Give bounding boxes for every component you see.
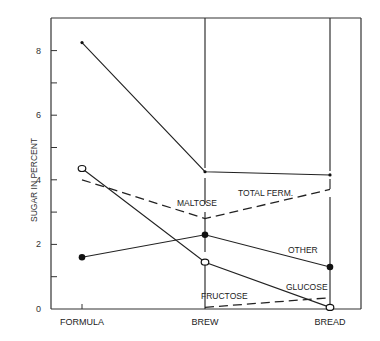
series-line-total-ferm- xyxy=(82,43,330,175)
y-tick-label: 8 xyxy=(36,46,41,56)
series-label: MALTOSE xyxy=(177,198,217,208)
series-label: FRUCTOSE xyxy=(201,291,248,301)
y-tick-label: 6 xyxy=(36,110,41,120)
series-label: TOTAL FERM. xyxy=(238,188,293,198)
x-axis: FORMULABREWBREAD xyxy=(60,304,346,327)
y-tick-label: 2 xyxy=(36,239,41,249)
x-category-label: FORMULA xyxy=(60,317,104,327)
series-lines xyxy=(78,41,334,310)
x-category-label: BREW xyxy=(192,317,220,327)
series-label: OTHER xyxy=(288,245,318,255)
sugar-chart: 02468 FORMULABREWBREAD TOTAL FERM.MALTOS… xyxy=(0,0,380,341)
x-category-label: BREAD xyxy=(314,317,346,327)
y-axis: 02468 xyxy=(36,46,57,314)
series-labels: TOTAL FERM.MALTOSEOTHERGLUCOSEFRUCTOSE xyxy=(177,188,328,301)
y-tick-label: 0 xyxy=(36,304,41,314)
y-axis-title: SUGAR IN PERCENT xyxy=(29,138,39,222)
series-label: GLUCOSE xyxy=(286,282,328,292)
